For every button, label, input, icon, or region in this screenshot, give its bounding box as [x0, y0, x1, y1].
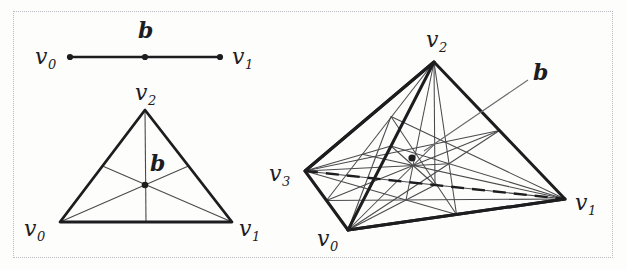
label-triangle-v0: v0 [24, 218, 45, 243]
triangle-medians [60, 110, 232, 222]
label-tetrahedron-v3-letter: v [269, 161, 281, 186]
label-segment-v1-subscript: 1 [245, 57, 253, 72]
median-v2-to-base-midpoint [145, 110, 146, 222]
tetrahedron-barycenter-dot [408, 154, 415, 161]
label-tetrahedron-v0: v0 [317, 228, 338, 253]
label-triangle-v2: v2 [135, 82, 156, 107]
segment-vertex-v1-dot [217, 54, 223, 60]
simplex-diagram-artwork [0, 0, 627, 270]
label-segment-v1: v1 [232, 46, 253, 71]
segment-barycenter-dot [142, 54, 148, 60]
label-tetrahedron-v2-subscript: 2 [439, 40, 447, 55]
label-tetrahedron-v2-letter: v [426, 27, 438, 52]
label-tetrahedron-v3: v3 [269, 163, 290, 188]
label-tetrahedron-v0-subscript: 0 [330, 239, 338, 254]
label-triangle-v2-subscript: 2 [148, 93, 156, 108]
edge-v3-v2 [305, 62, 434, 171]
triangle-barycenter-dot [142, 182, 149, 189]
label-triangle-v0-letter: v [24, 216, 36, 241]
crossline-v0v2mid-v1v3mid [391, 146, 435, 185]
one-simplex-group [67, 54, 223, 60]
label-triangle-v0-subscript: 0 [37, 229, 45, 244]
label-segment-v0-subscript: 0 [48, 57, 56, 72]
line-v0-to-edge-v1v2-midpoint [348, 131, 500, 231]
label-tetrahedron-v1-letter: v [575, 190, 587, 215]
label-tetrahedron-v1: v1 [575, 192, 596, 217]
three-simplex-group [305, 62, 565, 230]
median-v0-to-edge-v1v2-midpoint [60, 166, 189, 222]
label-segment-v0: v0 [35, 46, 56, 71]
label-segment-v0-letter: v [35, 44, 47, 69]
label-tetrahedron-v2: v2 [426, 29, 447, 54]
line-v2-to-edge-v1v3-midpoint [434, 62, 435, 185]
label-tetrahedron-v3-subscript: 3 [282, 174, 290, 189]
line-v1-to-edge-v2v3-midpoint [391, 117, 565, 200]
median-v1-to-face-v0v2v3-centroid [362, 154, 565, 199]
median-v1-to-edge-v0v2-midpoint [103, 166, 233, 222]
label-tetrahedron-v0-letter: v [317, 226, 329, 251]
label-triangle-v1-letter: v [239, 216, 251, 241]
two-simplex-group [60, 110, 232, 222]
label-segment-barycenter: b [138, 19, 153, 41]
line-v0-to-edge-v2v3-midpoint [348, 117, 391, 231]
label-triangle-v2-letter: v [135, 80, 147, 105]
label-tetrahedron-barycenter: b [533, 61, 548, 83]
line-v3-to-edge-v1v2-midpoint [305, 131, 500, 172]
figure-container: v0 b v1 v2 b v0 v1 v2 b v3 v0 v1 [0, 0, 627, 270]
segment-vertex-v0-dot [67, 54, 73, 60]
label-triangle-v1: v1 [239, 218, 260, 243]
label-triangle-v1-subscript: 1 [252, 229, 260, 244]
label-triangle-barycenter: b [150, 152, 165, 174]
label-segment-v1-letter: v [232, 44, 244, 69]
edge-v0-v1 [348, 199, 565, 230]
label-tetrahedron-v1-subscript: 1 [588, 203, 596, 218]
